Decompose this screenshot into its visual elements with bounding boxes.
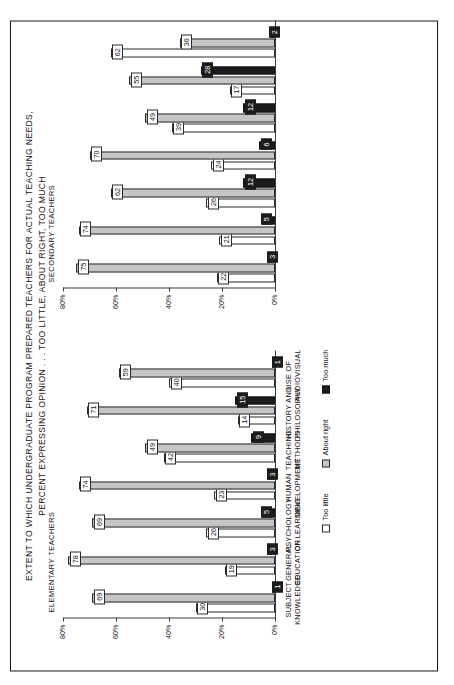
bar-right — [79, 226, 275, 235]
bar-value-label: 3 — [267, 251, 278, 262]
legend-label-too-much: Too much — [321, 349, 330, 381]
axis-tick-label: 20% — [217, 294, 226, 322]
bar-value-label: 28 — [202, 62, 213, 77]
bar-little — [172, 123, 275, 132]
legend-label-too-little: Too little — [321, 493, 330, 520]
legend-label-about-right: About right — [321, 419, 330, 455]
category-label-line-2: AUDIOVISUAL — [294, 344, 303, 405]
bar-value-label: 6 — [261, 139, 272, 150]
legend-item-about-right: About right — [321, 419, 330, 467]
axis-tick-label: 60% — [111, 294, 120, 322]
bar-value-label: 36 — [181, 34, 192, 49]
chart-page: EXTENT TO WHICH UNDERGRADUATE PROGRAM PR… — [0, 0, 454, 685]
bar-right — [145, 113, 275, 122]
chart-legend: Too little About right Too much — [321, 349, 330, 532]
axis-tick — [116, 287, 117, 291]
axis-tick-label: 80% — [58, 294, 67, 322]
bar-value-label: 12 — [245, 99, 256, 114]
bar-value-label: 5 — [261, 213, 272, 224]
bar-value-label: 74 — [80, 221, 91, 236]
bar-right — [90, 151, 276, 160]
legend-item-too-little: Too little — [321, 493, 330, 532]
axis-tick — [63, 287, 64, 291]
rotated-canvas: EXTENT TO WHICH UNDERGRADUATE PROGRAM PR… — [0, 0, 454, 685]
axis-tick — [169, 287, 170, 291]
category-axis-line — [275, 20, 276, 288]
bar-value-label: 2 — [269, 26, 280, 37]
axis-tick — [222, 287, 223, 291]
bar-little — [111, 48, 275, 57]
chart-frame: EXTENT TO WHICH UNDERGRADUATE PROGRAM PR… — [10, 20, 438, 671]
legend-item-too-much: Too much — [321, 349, 330, 393]
bar-value-label: 49 — [147, 109, 158, 124]
legend-swatch-about-right-icon — [322, 459, 330, 467]
bar-right — [180, 38, 275, 47]
legend-swatch-too-much-icon — [322, 385, 330, 393]
panel-secondary-teachers: SECONDARY TEACHERS0%20%40%60%80%22753217… — [11, 21, 437, 670]
axis-tick-label: 0% — [270, 294, 279, 322]
bar-value-label: 12 — [245, 174, 256, 189]
legend-swatch-too-little-icon — [322, 524, 330, 532]
bar-value-label: 70 — [91, 147, 102, 162]
bar-value-label: 62 — [112, 184, 123, 199]
bar-right — [129, 76, 275, 85]
category-label: USE OFAUDIOVISUAL — [285, 344, 302, 405]
axis-tick-label: 40% — [164, 294, 173, 322]
panel-label-secondary: SECONDARY TEACHERS — [47, 184, 56, 282]
bar-value-label: 55 — [131, 72, 142, 87]
bar-right — [111, 188, 275, 197]
axis-tick — [275, 287, 276, 291]
bar-right — [76, 263, 275, 272]
bar-value-label: 62 — [112, 44, 123, 59]
bar-value-label: 75 — [78, 259, 89, 274]
